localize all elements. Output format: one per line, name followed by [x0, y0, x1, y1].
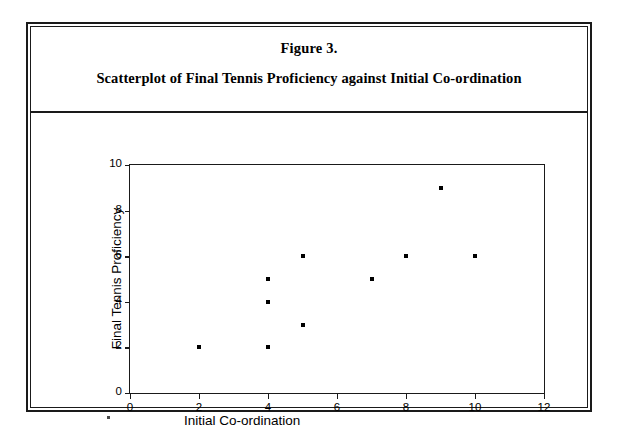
x-axis-tick-label: 10	[460, 401, 490, 413]
y-axis-title: Final Tennis Proficiency	[107, 164, 127, 392]
data-point	[301, 323, 305, 327]
y-axis-tick	[125, 211, 130, 212]
x-axis-tick-label: 0	[115, 401, 145, 413]
data-point	[473, 254, 477, 258]
y-axis-tick-label: 8	[98, 203, 122, 215]
x-axis-tick-label: 12	[529, 401, 559, 413]
data-point	[197, 345, 201, 349]
x-axis-tick	[199, 394, 200, 399]
y-axis-tick	[125, 393, 130, 394]
data-point	[266, 345, 270, 349]
x-axis-tick	[130, 394, 131, 399]
stray-mark	[107, 416, 110, 419]
y-axis-tick	[125, 165, 130, 166]
x-axis-tick-label: 4	[253, 401, 283, 413]
x-axis-tick	[337, 394, 338, 399]
x-axis-tick-label: 8	[391, 401, 421, 413]
figure-outer-frame: Figure 3. Scatterplot of Final Tennis Pr…	[26, 22, 592, 412]
figure-inner-frame: Figure 3. Scatterplot of Final Tennis Pr…	[30, 26, 588, 408]
y-axis-tick-label: 6	[98, 248, 122, 260]
chart-cell: Final Tennis Proficiency 024681012 02468…	[31, 113, 587, 407]
x-axis-tick-label: 2	[184, 401, 214, 413]
x-axis-tick	[268, 394, 269, 399]
y-axis-tick	[125, 347, 130, 348]
data-point	[266, 300, 270, 304]
y-axis-tick-label: 4	[98, 294, 122, 306]
data-point	[266, 277, 270, 281]
x-axis-tick-label: 6	[322, 401, 352, 413]
figure-title-cell: Figure 3. Scatterplot of Final Tennis Pr…	[31, 27, 587, 113]
x-axis-title: Initial Co-ordination	[184, 413, 300, 428]
data-point	[404, 254, 408, 258]
x-axis-tick	[475, 394, 476, 399]
data-point	[370, 277, 374, 281]
data-point	[301, 254, 305, 258]
y-axis-title-text: Final Tennis Proficiency	[110, 207, 125, 349]
x-axis-tick	[544, 394, 545, 399]
y-axis-tick-label: 0	[98, 385, 122, 397]
y-axis-tick	[125, 302, 130, 303]
scatter-plot-area: 024681012 0246810	[129, 164, 545, 394]
figure-number: Figure 3.	[31, 40, 587, 57]
y-axis-tick-label: 10	[98, 157, 122, 169]
data-point	[439, 186, 443, 190]
y-axis-tick	[125, 256, 130, 257]
figure-caption: Scatterplot of Final Tennis Proficiency …	[31, 70, 587, 87]
x-axis-tick	[406, 394, 407, 399]
y-axis-tick-label: 2	[98, 339, 122, 351]
